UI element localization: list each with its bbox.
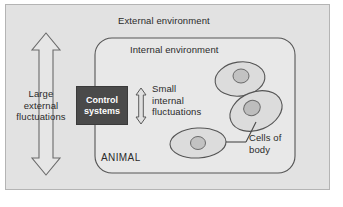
cell-top-nucleus xyxy=(233,69,249,83)
control-systems-box-label: Control systems xyxy=(84,95,120,116)
internal-environment-label: Internal environment xyxy=(130,44,219,56)
large-external-fluctuations-label: Large external fluctuations xyxy=(8,88,74,123)
animal-label: ANIMAL xyxy=(101,152,141,164)
small-internal-fluctuations-label: Small internal fluctuations xyxy=(152,83,214,118)
external-environment-label: External environment xyxy=(118,15,210,27)
diagram-figure: External environment Internal environmen… xyxy=(0,0,343,207)
cells-of-body-label: Cells of body xyxy=(249,132,309,155)
cell-bottom-nucleus xyxy=(191,137,206,150)
control-systems-box: Control systems xyxy=(76,86,128,125)
